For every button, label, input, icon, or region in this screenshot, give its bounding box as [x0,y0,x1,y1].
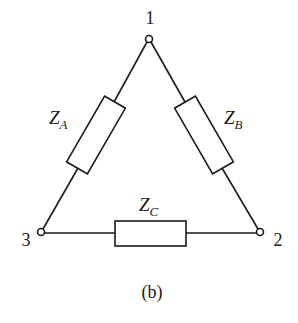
impedance-za [67,96,126,174]
wire-zb-to-2 [222,168,258,229]
node-2-terminal [257,229,264,236]
delta-circuit-diagram: 1 2 3 ZA ZB ZC (b) [0,0,298,323]
node-1-label: 1 [146,8,155,28]
figure-caption: (b) [142,282,163,303]
label-za: ZA [49,107,68,132]
label-zc: ZC [139,194,159,219]
node-2-label: 2 [274,230,283,250]
node-1-terminal [146,36,153,43]
wire-za-to-3 [43,168,78,229]
node-3-label: 3 [22,230,31,250]
label-zb: ZB [224,107,243,132]
impedance-zc [115,221,186,246]
wire-1-to-zb [151,42,185,102]
node-3-terminal [38,229,45,236]
wire-1-to-za [114,42,147,102]
